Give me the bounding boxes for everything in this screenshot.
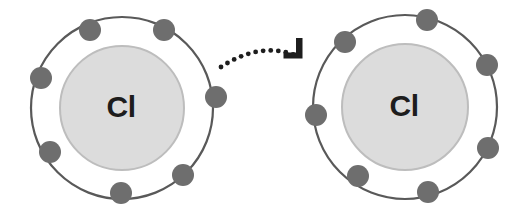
arrow-trail-dot <box>246 51 251 56</box>
valence-electron-dot <box>476 54 498 76</box>
arrow-dotted-trail <box>219 48 296 69</box>
valence-electron-dot <box>172 164 194 186</box>
nucleus-label-left: Cl <box>107 90 136 123</box>
arrow-trail-dot <box>261 48 266 53</box>
arrow-trail-dot <box>253 50 258 55</box>
electron-transfer-arrow <box>219 38 303 69</box>
valence-electron-dot <box>334 31 356 53</box>
arrowhead-icon <box>284 38 303 59</box>
nucleus-label-right: Cl <box>390 89 419 122</box>
valence-electron-dot <box>416 9 438 31</box>
valence-electron-dot <box>305 104 327 126</box>
valence-electron-dot <box>39 141 61 163</box>
valence-electron-dot <box>347 165 369 187</box>
arrow-trail-dot <box>268 48 273 53</box>
electron-transfer-diagram: Cl Cl <box>0 0 532 218</box>
chlorine-atom-left: Cl <box>30 17 227 204</box>
arrow-trail-dot <box>225 61 230 66</box>
chlorine-atom-right: Cl <box>305 9 499 203</box>
valence-electron-dot <box>417 181 439 203</box>
valence-electron-dot <box>153 19 175 41</box>
arrow-trail-dot <box>219 65 224 70</box>
valence-electron-dot <box>205 86 227 108</box>
valence-electron-dot <box>110 182 132 204</box>
arrow-trail-dot <box>239 54 244 59</box>
valence-electron-dot <box>79 19 101 41</box>
arrow-trail-dot <box>232 57 237 62</box>
diagram-canvas: Cl Cl <box>0 0 532 218</box>
valence-electron-dot <box>477 137 499 159</box>
arrow-trail-dot <box>276 49 281 54</box>
valence-electron-dot <box>30 67 52 89</box>
